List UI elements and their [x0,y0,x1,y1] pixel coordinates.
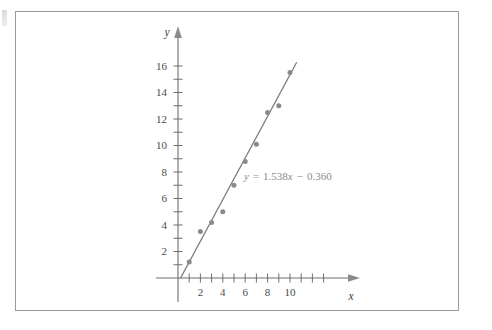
equation-lhs: y [243,170,249,182]
figure-frame: 2 4 6 8 10 2 4 6 8 10 12 14 16 x y y=1.5… [15,11,459,311]
y-axis-label: y [163,26,170,39]
y-tick-label: 8 [162,166,168,178]
y-axis-arrowhead [174,26,182,38]
x-tick-label: 10 [285,286,297,298]
y-tick-label: 10 [156,139,168,151]
y-tick-label: 6 [162,192,168,204]
y-tick-label: 14 [156,86,168,98]
x-axis-arrowhead [348,274,360,282]
data-point [220,209,225,214]
x-tick-labels: 2 4 6 8 10 [198,286,296,298]
data-point [187,260,192,265]
y-tick-label: 16 [156,60,168,72]
scatter-plot-svg: 2 4 6 8 10 2 4 6 8 10 12 14 16 x y y=1.5… [16,12,458,310]
y-tick-label: 12 [156,113,167,125]
data-point [276,103,281,108]
x-tick-label: 2 [198,286,204,298]
equation-slope: 1.538 [263,170,288,182]
y-tick-labels: 2 4 6 8 10 12 14 16 [156,60,168,257]
equation-xvar: x [287,170,293,182]
equation-equals: = [253,170,259,182]
y-tick-label: 4 [162,219,168,231]
x-tick-label: 8 [265,286,271,298]
data-point [232,183,237,188]
data-point [254,142,259,147]
figure-root: 2 4 6 8 10 2 4 6 8 10 12 14 16 x y y=1.5… [0,0,492,330]
data-point [288,70,293,75]
equation-intercept: 0.360 [307,170,332,182]
page-edge-artifact [2,10,7,26]
x-tick-label: 4 [220,286,226,298]
axes-group [156,26,360,302]
regression-equation-label: y=1.538x−0.360 [243,170,332,182]
data-point [265,110,270,115]
data-point [198,229,203,234]
equation-minus: − [297,170,303,182]
y-tick-label: 2 [162,245,168,257]
x-axis-label: x [347,290,354,302]
data-point [209,220,214,225]
data-point [243,159,248,164]
x-tick-label: 6 [242,286,248,298]
